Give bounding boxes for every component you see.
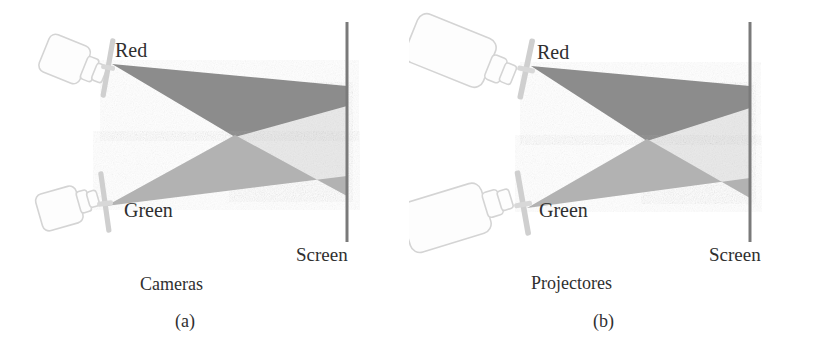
panel-a-device-label: Cameras (140, 275, 203, 293)
panel-b-projector-bottom (409, 173, 519, 255)
panel-b-projector-top (409, 11, 523, 100)
panel-b-red-label: Red (537, 42, 569, 62)
panel-b-green-label: Green (539, 200, 588, 220)
panel-a-camera-top (37, 32, 112, 93)
panel-a-red-label: Red (115, 40, 147, 60)
panel-b-illustration (409, 0, 818, 347)
panel-a-stage (0, 0, 409, 347)
panel-a-cameras: Red Green Screen Cameras (a) (0, 0, 409, 347)
panel-a-caption: (a) (175, 312, 195, 330)
panel-b-screen-label: Screen (709, 245, 761, 264)
panel-a-camera-bottom (34, 179, 103, 232)
panel-b-device-label: Projectores (531, 274, 612, 292)
panel-a-illustration (0, 0, 409, 347)
panel-b-caption: (b) (593, 312, 614, 330)
color-mixing-figure: Red Green Screen Cameras (a) (0, 0, 818, 347)
panel-a-green-label: Green (124, 200, 173, 220)
panel-a-screen-label: Screen (296, 245, 348, 264)
panel-b-stage (409, 0, 818, 347)
panel-b-projectors: Red Green Screen Projectores (b) (409, 0, 818, 347)
